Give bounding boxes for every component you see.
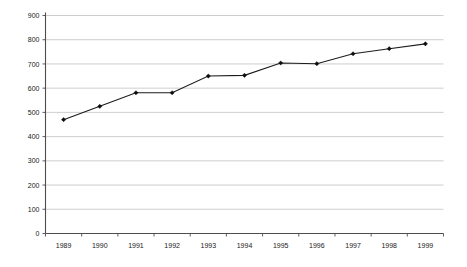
x-axis-tick-label: 1991 xyxy=(128,242,144,249)
y-axis-tick-label: 500 xyxy=(28,109,40,116)
x-axis-tick-label: 1996 xyxy=(309,242,325,249)
x-axis-tick-label: 1998 xyxy=(381,242,397,249)
data-point-marker xyxy=(279,61,283,65)
y-axis-tick-label: 300 xyxy=(28,157,40,164)
x-axis-tick-label: 1995 xyxy=(273,242,289,249)
x-axis-tick-label: 1994 xyxy=(237,242,253,249)
data-point-marker xyxy=(315,62,319,66)
x-axis-tick-label: 1993 xyxy=(201,242,217,249)
data-point-marker xyxy=(423,42,427,46)
gridlines-group xyxy=(46,16,444,210)
x-axis-tick-label: 1989 xyxy=(56,242,72,249)
y-axis-label-group: 0100200300400500600700800900 xyxy=(28,12,40,237)
y-axis-tick-label: 400 xyxy=(28,133,40,140)
x-axis-tick-label: 1990 xyxy=(92,242,108,249)
data-series-line xyxy=(64,44,426,120)
y-axis-tick-label: 100 xyxy=(28,206,40,213)
data-point-marker xyxy=(170,91,174,95)
chart-canvas: 0100200300400500600700800900 19891990199… xyxy=(0,0,467,267)
data-point-marker xyxy=(242,73,246,77)
y-axis-tick-label: 200 xyxy=(28,182,40,189)
data-point-marker xyxy=(387,47,391,51)
y-axis-tick-label: 700 xyxy=(28,61,40,68)
x-axis-tick-label: 1992 xyxy=(164,242,180,249)
y-axis-tick-label: 600 xyxy=(28,85,40,92)
x-axis-tick-label: 1999 xyxy=(418,242,434,249)
y-axis-tick-label: 0 xyxy=(36,230,40,237)
y-axis-tick-label: 800 xyxy=(28,36,40,43)
data-point-marker xyxy=(351,52,355,56)
data-point-marker xyxy=(61,118,65,122)
x-axis-tick-label: 1997 xyxy=(345,242,361,249)
data-point-marker xyxy=(98,104,102,108)
data-point-marker xyxy=(206,74,210,78)
y-axis-tick-label: 900 xyxy=(28,12,40,19)
line-chart-figure: 0100200300400500600700800900 19891990199… xyxy=(0,0,467,267)
data-point-marker-group xyxy=(61,42,427,122)
x-axis-label-group: 1989199019911992199319941995199619971998… xyxy=(56,242,433,249)
data-point-marker xyxy=(134,91,138,95)
